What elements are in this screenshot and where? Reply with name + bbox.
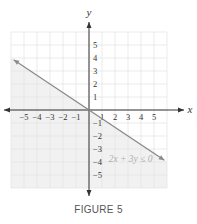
svg-text:3: 3 bbox=[126, 112, 130, 122]
svg-text:5: 5 bbox=[93, 40, 97, 50]
svg-text:x: x bbox=[187, 103, 193, 115]
svg-text:2x + 3y ≤ 0: 2x + 3y ≤ 0 bbox=[109, 154, 153, 164]
svg-text:−1: −1 bbox=[93, 118, 102, 128]
svg-text:−5: −5 bbox=[19, 112, 28, 122]
svg-text:2: 2 bbox=[113, 112, 117, 122]
svg-text:−2: −2 bbox=[93, 131, 102, 141]
svg-text:−1: −1 bbox=[71, 112, 80, 122]
svg-text:−2: −2 bbox=[58, 112, 67, 122]
svg-text:5: 5 bbox=[152, 112, 156, 122]
svg-text:2: 2 bbox=[93, 79, 97, 89]
svg-text:−4: −4 bbox=[32, 112, 42, 122]
figure-caption: FIGURE 5 bbox=[0, 204, 197, 215]
svg-text:−3: −3 bbox=[45, 112, 54, 122]
svg-text:3: 3 bbox=[93, 66, 97, 76]
svg-text:−5: −5 bbox=[93, 170, 102, 180]
svg-text:−3: −3 bbox=[93, 144, 102, 154]
svg-text:y: y bbox=[86, 6, 92, 18]
svg-text:1: 1 bbox=[93, 92, 97, 102]
svg-text:−4: −4 bbox=[93, 157, 103, 167]
svg-text:4: 4 bbox=[139, 112, 144, 122]
inequality-annotation: 2x + 3y ≤ 0 bbox=[109, 154, 153, 164]
coordinate-plane: xy −5−4−3−2−11234554321−1−2−3−4−5 2x + 3… bbox=[0, 0, 197, 205]
